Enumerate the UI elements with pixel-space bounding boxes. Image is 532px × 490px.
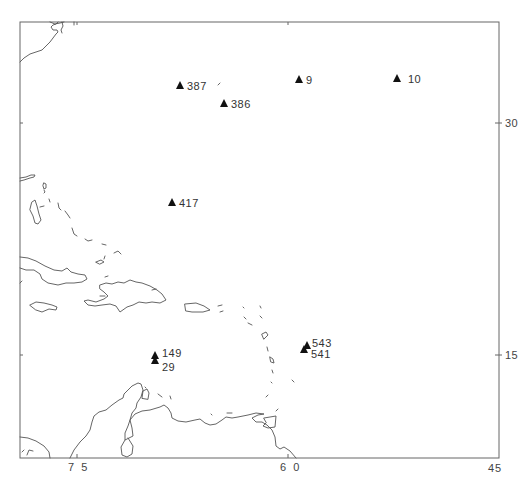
- curacao: [158, 394, 162, 397]
- martinique: [270, 357, 274, 363]
- small-islet-bermuda: [218, 83, 220, 85]
- triangle-marker-icon: [168, 198, 176, 206]
- vieques: [218, 305, 222, 306]
- station-label: 10: [408, 74, 421, 85]
- bahamas-islet-1: [43, 183, 46, 189]
- st-vincent: [271, 382, 272, 383]
- x-axis-label-75: 7 5: [68, 462, 89, 473]
- bahamas-islet-3: [40, 206, 44, 207]
- barbuda: [260, 306, 261, 308]
- station-label: 149: [162, 348, 182, 359]
- saona: [152, 289, 156, 290]
- grenada: [266, 395, 268, 397]
- florida-keys: [20, 175, 35, 181]
- inagua-islet: [104, 256, 105, 259]
- south-america-coast: [70, 383, 296, 458]
- station-label: 9: [306, 75, 313, 86]
- anguilla: [243, 307, 244, 308]
- bahamas-islet-9: [102, 244, 106, 245]
- great-inagua: [96, 260, 104, 264]
- hispaniola: [84, 280, 166, 312]
- tortuga: [105, 276, 108, 277]
- triangle-marker-icon: [220, 99, 228, 107]
- tortuga-ve: [211, 414, 212, 415]
- bahamas-islet-6: [65, 211, 70, 218]
- puerto-rico: [185, 303, 210, 312]
- x-axis-label-60: 6 0: [280, 462, 301, 473]
- triangle-marker-icon: [176, 81, 184, 89]
- triangle-marker-icon: [393, 74, 401, 82]
- y-axis-label-30: 30: [505, 118, 518, 129]
- triangle-marker-icon: [151, 356, 159, 364]
- andros-island: [30, 200, 41, 224]
- coastlines: [20, 22, 296, 458]
- dominica: [267, 347, 268, 351]
- bahamas-islet-5: [58, 203, 61, 210]
- jamaica: [30, 302, 57, 312]
- tobago: [276, 409, 278, 411]
- y-axis-label-15: 15: [505, 350, 518, 361]
- st-lucia: [272, 370, 273, 373]
- triangle-marker-icon: [295, 75, 303, 83]
- map-canvas: [0, 0, 532, 490]
- montserrat: [248, 323, 252, 325]
- station-label: 29: [162, 362, 175, 373]
- maracaibo-lake: [121, 438, 133, 457]
- station-label: 386: [231, 99, 251, 110]
- cuba: [20, 257, 87, 285]
- antigua: [260, 316, 262, 318]
- bahamas-islet-8: [85, 239, 92, 241]
- x-axis-label-45: 45: [488, 463, 502, 474]
- panama-islet: [22, 450, 33, 455]
- bahamas-islet-4: [49, 199, 50, 202]
- virgin-islands: [220, 311, 223, 312]
- station-label: 417: [179, 198, 199, 209]
- bahamas-islet-7: [72, 228, 77, 236]
- paraguana: [142, 389, 149, 399]
- aruba: [145, 387, 146, 388]
- trinidad: [263, 416, 276, 428]
- bahamas-islet-2: [44, 190, 45, 193]
- us-east-coast: [20, 22, 74, 62]
- station-label: 541: [311, 349, 331, 360]
- st-kitts: [244, 317, 246, 319]
- panama-coast: [20, 437, 50, 458]
- triangle-marker-icon: [300, 345, 308, 353]
- station-label: 387: [187, 81, 207, 92]
- bonaire: [170, 396, 171, 399]
- guadeloupe: [262, 332, 268, 339]
- barbados: [292, 380, 294, 382]
- turks-caicos: [114, 251, 121, 254]
